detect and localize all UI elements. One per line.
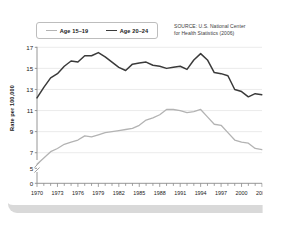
x-axis-tick-label: 1988 xyxy=(154,190,166,196)
y-axis-tick-label: 9 xyxy=(30,128,34,135)
x-axis-tick-label: 1973 xyxy=(51,190,63,196)
y-axis-tick-label: 0 xyxy=(30,180,34,187)
x-axis-tick-label: 1976 xyxy=(72,190,84,196)
y-axis-tick-label: 11 xyxy=(27,107,34,114)
chart-figure: Age 15–19 Age 20–24 SOURCE: U.S. Nationa… xyxy=(0,0,286,226)
y-axis-tick-label: 13 xyxy=(26,86,33,93)
x-axis-tick-label: 1985 xyxy=(133,190,145,196)
x-axis-tick-label: 2000 xyxy=(236,190,248,196)
x-axis-tick-label: 1991 xyxy=(174,190,186,196)
x-axis-tick-label: 1970 xyxy=(31,190,43,196)
y-axis-tick-label: 5 xyxy=(30,165,34,172)
x-axis-tick-label: 1982 xyxy=(113,190,125,196)
y-axis-tick-label: 7 xyxy=(30,149,34,156)
x-axis-tick-label: 1979 xyxy=(92,190,104,196)
chart-plot: 0579111315171970197319761979198219851988… xyxy=(0,0,286,226)
y-axis-tick-label: 15 xyxy=(26,65,33,72)
x-axis-tick-label: 1994 xyxy=(195,190,207,196)
x-axis-tick-label: 1997 xyxy=(215,190,227,196)
y-axis-tick-label: 17 xyxy=(26,44,33,51)
